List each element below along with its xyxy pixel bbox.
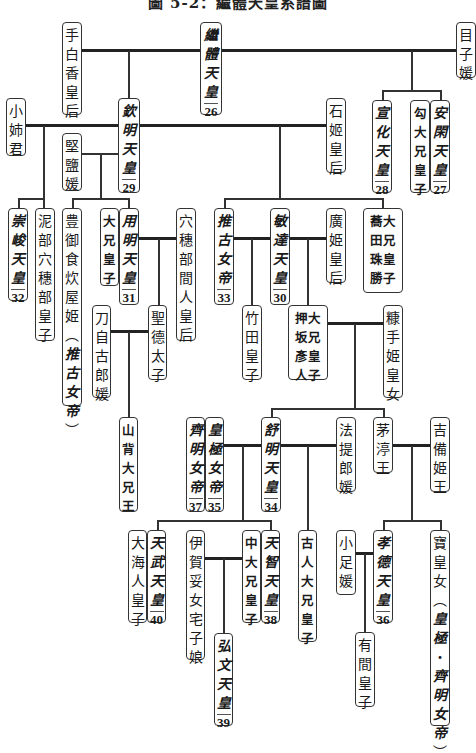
person-box-nakano[interactable]: 中大兄皇子	[242, 530, 261, 623]
person-box-nunakura[interactable]: 大兄皇子蕎田珠勝	[363, 208, 403, 293]
person-box-tojiko[interactable]: 刀自古郎媛	[92, 305, 111, 398]
connector-horizontal	[222, 49, 456, 52]
connector-vertical	[43, 198, 45, 208]
reign-number: 26	[204, 103, 218, 120]
connector-vertical	[307, 446, 309, 530]
person-label: 廣姫皇后	[329, 212, 343, 279]
person-box-takara[interactable]: 寶皇女︵皇極・齊明女帝︶	[430, 530, 450, 726]
connector-vertical	[411, 51, 413, 91]
person-box-kotoku[interactable]: 孝德天皇36	[373, 530, 393, 623]
person-box-kibi[interactable]: 吉備姫王	[430, 417, 450, 492]
reign-number: 27	[433, 181, 447, 198]
connector-vertical	[157, 520, 159, 530]
connector-vertical	[270, 520, 272, 530]
person-box-suiko[interactable]: 推古女帝33	[214, 208, 234, 305]
person-box-tashiraka[interactable]: 手白香皇后	[62, 22, 82, 115]
reign-number: 31	[122, 289, 136, 306]
person-box-tenji[interactable]: 天智天皇38	[261, 530, 280, 623]
person-name: 押坂彥人	[295, 309, 308, 376]
connector-vertical	[307, 239, 309, 305]
person-box-senka[interactable]: 宣化天皇28	[372, 100, 392, 193]
connector-horizontal	[224, 198, 383, 200]
person-box-hote[interactable]: 法提郎媛	[336, 417, 356, 492]
person-box-yakako[interactable]: 伊賀妥女宅子娘	[186, 530, 205, 660]
person-box-saimei[interactable]: 齊明女帝37	[186, 417, 205, 512]
connector-horizontal	[140, 124, 326, 127]
person-label: 皇極女帝35	[208, 421, 222, 508]
connector-vertical	[223, 559, 225, 633]
reign-number: 29	[122, 179, 136, 196]
person-box-kitashi[interactable]: 堅鹽媛	[62, 133, 82, 191]
person-label: 敏達天皇30	[273, 212, 287, 301]
person-label: 中大兄皇子	[245, 534, 258, 619]
person-box-chinu[interactable]: 茅渟王	[373, 417, 393, 473]
person-box-sushun[interactable]: 崇峻天皇32	[8, 208, 28, 301]
person-box-ankan[interactable]: 安閑天皇27	[430, 100, 450, 193]
person-box-arima[interactable]: 有間皇子	[355, 632, 375, 707]
connector-horizontal	[382, 90, 441, 92]
person-box-oane[interactable]: 小姉君	[6, 98, 26, 156]
connector-horizontal	[82, 49, 200, 52]
person-label: 堅鹽媛	[65, 137, 79, 187]
person-label: 聖德太子	[151, 309, 165, 376]
person-label: 伊賀妥女宅子娘	[189, 534, 203, 656]
person-label: 用明天皇31	[122, 212, 136, 301]
connector-vertical	[382, 198, 384, 208]
person-box-bidatsu[interactable]: 敏達天皇30	[270, 208, 290, 305]
person-box-yomei[interactable]: 用明天皇31	[119, 208, 139, 305]
person-box-shotoku[interactable]: 聖德太子	[148, 305, 167, 380]
diagram-title: 圖 5-2：繼體天皇系譜圖	[0, 0, 476, 12]
person-label: 竹田皇子	[245, 309, 259, 376]
person-box-hasetsukabe[interactable]: 泥部穴穗部皇子	[35, 208, 55, 341]
person-box-yamashiro[interactable]: 山背大兄王	[119, 417, 138, 512]
person-box-keitai[interactable]: 繼體天皇26	[200, 22, 222, 115]
connector-vertical	[242, 446, 244, 520]
connector-vertical	[224, 198, 226, 208]
reign-number: 38	[264, 611, 278, 628]
connector-vertical	[128, 51, 130, 98]
person-label: 大兄皇子	[103, 212, 116, 282]
person-box-kogyoku[interactable]: 皇極女帝35	[205, 417, 224, 512]
person-box-menoko[interactable]: 目子媛	[456, 22, 476, 78]
person-box-jomei[interactable]: 舒明天皇34	[261, 417, 281, 512]
person-label: 天智天皇38	[264, 534, 278, 619]
reign-number: 34	[264, 498, 278, 515]
person-box-furuhito[interactable]: 古人大兄皇子	[298, 530, 317, 642]
reign-number: 30	[273, 289, 287, 306]
person-label: 大海人皇子	[131, 534, 145, 619]
person-label: 古人大兄皇子	[301, 534, 314, 638]
person-box-oama[interactable]: 大海人皇子	[128, 530, 147, 623]
person-label: 繼體天皇26	[204, 26, 218, 111]
person-label: 目子媛	[459, 26, 473, 74]
connector-vertical	[382, 90, 384, 100]
person-box-toyomike[interactable]: 豊御食炊屋姫︵推古女帝︶	[62, 208, 82, 406]
person-label: 豊御食炊屋姫︵推古女帝︶	[65, 212, 79, 402]
connector-horizontal	[281, 444, 336, 447]
person-label: 勾大兄皇子	[414, 104, 427, 189]
connector-horizontal	[383, 520, 440, 522]
person-box-ooe1[interactable]: 大兄皇子	[100, 208, 119, 286]
person-box-takeda[interactable]: 竹田皇子	[242, 305, 262, 380]
person-box-kobun[interactable]: 弘文天皇39	[214, 633, 233, 726]
person-label: 齊明女帝37	[189, 421, 203, 508]
person-box-oashi[interactable]: 小足媛	[336, 530, 356, 595]
connector-horizontal	[271, 408, 383, 410]
connector-horizontal	[18, 198, 44, 200]
person-label: 手白香皇后	[65, 26, 79, 111]
connector-horizontal	[72, 198, 129, 200]
person-box-ishihime[interactable]: 石姬皇后	[326, 98, 346, 173]
reign-number: 40	[150, 611, 164, 628]
person-box-oshisaka[interactable]: 大兄皇子押坂彥人	[288, 305, 328, 380]
person-label: 小姉君	[9, 102, 23, 152]
person-label: 弘文天皇39	[217, 637, 231, 722]
person-name: 大兄皇子	[383, 212, 396, 289]
person-name: 蕎田珠勝	[370, 212, 383, 289]
person-box-hirohime[interactable]: 廣姫皇后	[326, 208, 346, 283]
person-box-kinmei[interactable]: 欽明天皇29	[118, 98, 140, 193]
connector-vertical	[158, 239, 160, 305]
person-box-magari[interactable]: 勾大兄皇子	[410, 100, 430, 193]
person-box-tenmu[interactable]: 天武天皇40	[147, 530, 166, 623]
person-label: 吉備姫王	[433, 421, 447, 488]
person-box-nukate[interactable]: 糠手姫皇女	[383, 305, 403, 398]
person-box-anahobe[interactable]: 穴穗部間人皇后	[176, 208, 196, 341]
